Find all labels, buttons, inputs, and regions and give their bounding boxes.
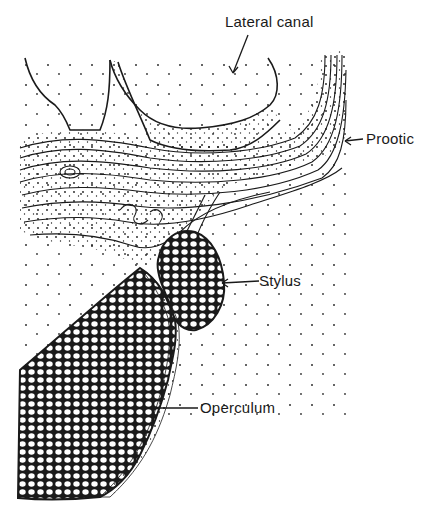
label-operculum: Operculum xyxy=(200,399,275,416)
label-lateral-canal: Lateral canal xyxy=(225,13,314,30)
anatomical-diagram xyxy=(0,0,435,505)
label-prootic: Prootic xyxy=(366,130,414,147)
label-stylus: Stylus xyxy=(259,272,301,289)
